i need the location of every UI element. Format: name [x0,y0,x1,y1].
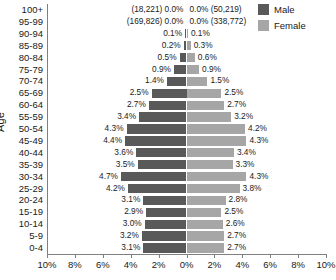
bar-male[interactable] [138,160,187,169]
bar-pair: 4.2%3.8% [47,183,326,195]
pyramid-row: 100+(18,221) 0.0%0.0% (50,219) [47,4,326,16]
pyramid-row: 85-890.2%0.3% [47,40,326,52]
bar-male[interactable] [127,124,187,133]
x-tick-mark [270,254,271,258]
pyramid-row: 10-143.0%2.6% [47,218,326,230]
value-label-male: 4.7% [99,171,118,183]
bar-female[interactable] [187,231,225,240]
bar-male[interactable] [143,196,186,205]
value-label-male: 4.4% [103,135,122,147]
bar-pair: 3.0%2.6% [47,218,326,230]
value-label-female: 0.9% [202,64,221,76]
bar-male[interactable] [128,184,187,193]
x-tick-mark [242,254,243,258]
bar-female[interactable] [187,196,226,205]
age-group-label: 30-34 [0,171,43,183]
bar-male[interactable] [121,172,187,181]
value-label-female: 0.3% [194,40,213,52]
value-label-female: 3.4% [237,147,256,159]
bar-pair: 3.1%2.8% [47,194,326,206]
value-label-male: 0.1% [163,28,182,40]
bar-female[interactable] [187,101,225,110]
value-label-female: 1.5% [210,75,229,87]
value-label-female: 0.6% [198,52,217,64]
bar-female[interactable] [187,243,225,252]
bar-male[interactable] [146,208,186,217]
value-label-female: 3.3% [236,159,255,171]
bar-female[interactable] [187,65,200,74]
age-group-label: 20-24 [0,194,43,206]
bar-male[interactable] [143,243,186,252]
value-label-male: 3.4% [117,111,136,123]
bar-male[interactable] [139,112,186,121]
age-group-label: 15-19 [0,206,43,218]
bar-female[interactable] [187,41,191,50]
pyramid-row: 40-443.6%3.4% [47,147,326,159]
value-label-female: 4.2% [248,123,267,135]
pyramid-row: 80-840.5%0.6% [47,52,326,64]
value-label-male: 0.5% [158,52,177,64]
pyramid-row: 90-940.1%0.1% [47,28,326,40]
x-tick-mark [298,254,299,258]
bar-female[interactable] [187,29,188,38]
bar-male[interactable] [180,53,187,62]
age-group-label: 0-4 [0,242,43,254]
bar-female[interactable] [187,208,222,217]
bar-female[interactable] [187,77,208,86]
value-label-male: 2.7% [127,99,146,111]
bar-pair: 4.7%4.3% [47,171,326,183]
value-label-male: 0.9% [152,64,171,76]
bar-female[interactable] [187,172,247,181]
age-group-label: 100+ [0,4,43,16]
pyramid-row: 95-99(169,826) 0.0%0.0% (338,772) [47,16,326,28]
bar-male[interactable] [136,148,186,157]
bar-pair: 3.4%3.2% [47,111,326,123]
value-label-male: 4.2% [106,183,125,195]
value-label-female: 0.1% [191,28,210,40]
age-group-label: 75-79 [0,64,43,76]
x-tick-mark [326,254,327,258]
age-group-label: 70-74 [0,75,43,87]
bar-male[interactable] [142,231,187,240]
bar-male[interactable] [125,136,186,145]
age-group-label: 65-69 [0,87,43,99]
value-label-female: 2.8% [229,194,248,206]
age-group-label: 55-59 [0,111,43,123]
bar-female[interactable] [187,112,232,121]
bar-pair: (169,826) 0.0%0.0% (338,772) [47,16,326,28]
pyramid-row: 60-642.7%2.7% [47,99,326,111]
bar-female[interactable] [187,53,195,62]
bar-male[interactable] [152,89,187,98]
bar-male[interactable] [174,65,187,74]
bar-pair: 1.4%1.5% [47,75,326,87]
bar-pair: 4.3%4.2% [47,123,326,135]
bar-female[interactable] [187,148,234,157]
pyramid-row: 55-593.4%3.2% [47,111,326,123]
bar-female[interactable] [187,136,247,145]
value-label-male: 0.2% [162,40,181,52]
value-label-female: 2.5% [224,87,243,99]
value-label-female: 4.3% [249,171,268,183]
bar-male[interactable] [167,77,187,86]
value-label-female: 0.0% (338,772) [190,16,247,28]
value-label-female: 2.7% [227,99,246,111]
bar-pair: 3.2%2.7% [47,230,326,242]
bar-male[interactable] [145,220,187,229]
value-label-male: 2.9% [124,206,143,218]
bar-male[interactable] [149,101,187,110]
value-label-male: 1.4% [145,75,164,87]
bar-female[interactable] [187,220,223,229]
age-group-label: 95-99 [0,16,43,28]
age-group-label: 45-49 [0,135,43,147]
value-label-female: 2.5% [224,206,243,218]
pyramid-row: 75-790.9%0.9% [47,64,326,76]
bar-female[interactable] [187,160,233,169]
bar-female[interactable] [187,184,240,193]
value-label-male: 2.5% [130,87,149,99]
bar-female[interactable] [187,89,222,98]
age-group-label: 40-44 [0,147,43,159]
bar-female[interactable] [187,124,246,133]
x-tick-mark [131,254,132,258]
age-group-label: 25-29 [0,183,43,195]
bar-pair: 3.1%2.7% [47,242,326,254]
